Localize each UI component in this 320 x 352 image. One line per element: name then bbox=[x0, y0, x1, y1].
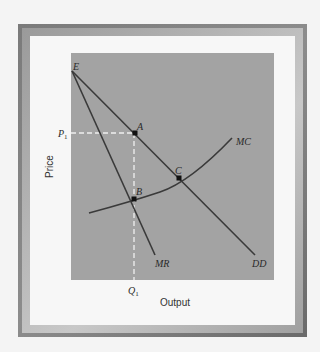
point-b-label: B bbox=[136, 186, 142, 197]
point-e-label: E bbox=[72, 61, 79, 72]
x-axis-title: Output bbox=[160, 297, 190, 308]
mr-label: MR bbox=[154, 258, 169, 269]
point-c-marker bbox=[177, 176, 182, 181]
point-c-label: C bbox=[175, 165, 182, 176]
point-a-label: A bbox=[136, 121, 144, 132]
y-axis-title: Price bbox=[44, 155, 55, 178]
monopoly-pricing-diagram: E A B C MC MR DD P1 Q1 Output Price bbox=[0, 0, 320, 352]
dd-label: DD bbox=[251, 258, 267, 269]
plot-area bbox=[71, 53, 274, 280]
quantity-q1-label: Q1 bbox=[128, 285, 139, 298]
mc-label: MC bbox=[235, 136, 251, 147]
price-p1-label: P1 bbox=[57, 128, 68, 141]
point-b-marker bbox=[132, 197, 137, 202]
